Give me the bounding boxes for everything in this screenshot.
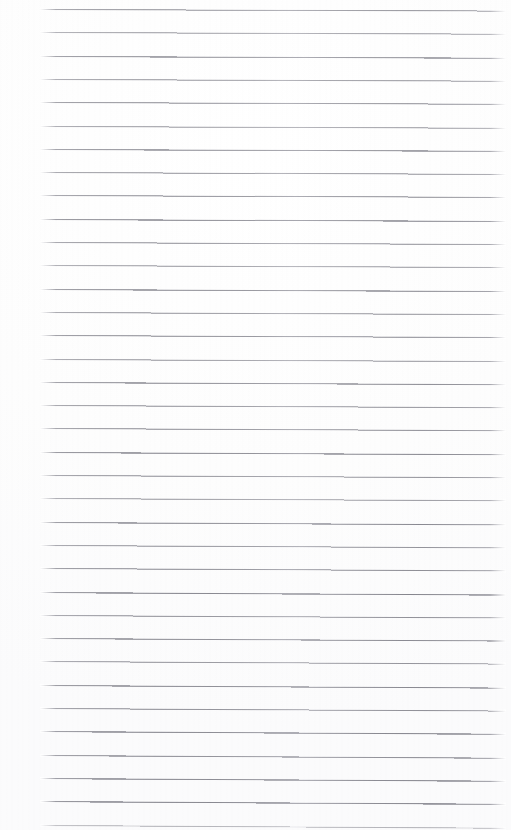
- ruled-line-stroke: [40, 148, 506, 153]
- ruled-line: [40, 777, 506, 783]
- ruled-line-right-fade: [490, 336, 506, 339]
- ruled-line-left-fade: [40, 614, 56, 617]
- ruled-line: [40, 334, 506, 339]
- ruled-line-density-variation: [40, 545, 506, 548]
- ruled-line: [40, 567, 506, 572]
- ruled-line-density-variation: [40, 289, 506, 292]
- ruled-line-density-variation: [40, 172, 506, 175]
- ruled-line-left-fade: [40, 55, 56, 58]
- ruled-line-left-fade: [40, 660, 56, 663]
- ruled-line-stroke: [40, 474, 506, 479]
- ruled-line: [40, 754, 506, 760]
- ruled-line-left-fade: [40, 427, 56, 430]
- ruled-line-right-fade: [490, 476, 506, 479]
- ruled-line-density-variation: [40, 79, 506, 82]
- ruled-line-right-fade: [490, 383, 506, 386]
- ruled-line-stroke: [40, 218, 506, 223]
- ruled-line: [40, 521, 506, 526]
- ruled-line-stroke: [40, 31, 506, 36]
- ruled-line: [40, 218, 506, 223]
- ruled-line-right-fade: [490, 593, 506, 596]
- ruled-line-right-fade: [490, 500, 506, 503]
- ruled-line: [40, 660, 506, 666]
- ruled-line-left-fade: [40, 637, 56, 640]
- ruled-line-density-variation: [40, 32, 506, 35]
- ruled-line-right-fade: [490, 150, 506, 153]
- ruled-line-stroke: [40, 194, 506, 199]
- ruled-line-stroke: [40, 358, 506, 363]
- ruled-line-density-variation: [40, 755, 506, 759]
- ruled-line-density-variation: [40, 359, 506, 362]
- ruled-line: [40, 684, 506, 690]
- ruled-line: [40, 148, 506, 153]
- ruled-line-left-fade: [40, 264, 56, 267]
- ruled-line-density-variation: [40, 9, 506, 12]
- ruled-line-right-fade: [490, 779, 506, 782]
- ruled-line-stroke: [40, 288, 506, 293]
- ruled-line-density-variation: [40, 731, 506, 735]
- ruled-line: [40, 497, 506, 502]
- ruled-line-left-fade: [40, 125, 56, 128]
- ruled-line: [40, 474, 506, 479]
- ruled-line: [40, 637, 506, 643]
- ruled-line-stroke: [40, 264, 506, 269]
- ruled-line-left-fade: [40, 707, 56, 710]
- ruled-line-right-fade: [490, 406, 506, 409]
- ruled-line: [40, 31, 506, 36]
- ruled-line-density-variation: [40, 592, 506, 596]
- ruled-line-density-variation: [40, 778, 506, 782]
- ruled-line-left-fade: [40, 148, 56, 151]
- ruled-line-right-fade: [490, 33, 506, 36]
- ruled-line: [40, 707, 506, 713]
- ruled-line-left-fade: [40, 730, 56, 733]
- ruled-line-density-variation: [40, 615, 506, 619]
- ruled-line: [40, 8, 506, 13]
- ruled-line-left-fade: [40, 521, 56, 524]
- ruled-line-stroke: [40, 777, 506, 783]
- ruled-line-density-variation: [40, 56, 506, 59]
- ruled-line-left-fade: [40, 101, 56, 104]
- ruled-line-right-fade: [490, 360, 506, 363]
- ruled-line-left-fade: [40, 404, 56, 407]
- ruled-line: [40, 544, 506, 549]
- ruled-line: [40, 614, 506, 620]
- ruled-line-left-fade: [40, 754, 56, 757]
- ruled-line: [40, 591, 506, 597]
- ruled-line-right-fade: [490, 523, 506, 526]
- ruled-line-stroke: [40, 55, 506, 60]
- ruled-line: [40, 311, 506, 316]
- ruled-line-left-fade: [40, 451, 56, 454]
- ruled-line-density-variation: [40, 242, 506, 245]
- ruled-line-left-fade: [40, 218, 56, 221]
- ruled-line-left-fade: [40, 684, 56, 687]
- ruled-line-stroke: [40, 800, 506, 806]
- ruled-line-density-variation: [40, 219, 506, 222]
- ruled-line-right-fade: [490, 710, 506, 713]
- ruled-line-right-fade: [490, 56, 506, 59]
- ruled-line-right-fade: [490, 663, 506, 666]
- ruled-line-left-fade: [40, 800, 56, 803]
- ruled-line-left-fade: [40, 334, 56, 337]
- ruled-line-stroke: [40, 824, 506, 830]
- ruled-line: [40, 800, 506, 806]
- ruled-line-stroke: [40, 754, 506, 760]
- ruled-line-left-fade: [40, 567, 56, 570]
- ruled-line-density-variation: [40, 638, 506, 642]
- ruled-line-stroke: [40, 637, 506, 643]
- ruled-line-left-fade: [40, 358, 56, 361]
- ruled-line-right-fade: [490, 453, 506, 456]
- ruled-line-left-fade: [40, 474, 56, 477]
- ruled-line-right-fade: [490, 733, 506, 736]
- ruled-line-stroke: [40, 8, 506, 13]
- ruled-line-right-fade: [490, 196, 506, 199]
- ruled-line: [40, 427, 506, 432]
- ruled-line-density-variation: [40, 522, 506, 525]
- ruled-line-right-fade: [490, 570, 506, 573]
- ruled-line-layer: [0, 0, 511, 830]
- ruled-line-stroke: [40, 497, 506, 502]
- ruled-line-stroke: [40, 381, 506, 386]
- ruled-line-density-variation: [40, 801, 506, 805]
- ruled-line: [40, 171, 506, 176]
- ruled-line-right-fade: [490, 243, 506, 246]
- ruled-line-right-fade: [490, 103, 506, 106]
